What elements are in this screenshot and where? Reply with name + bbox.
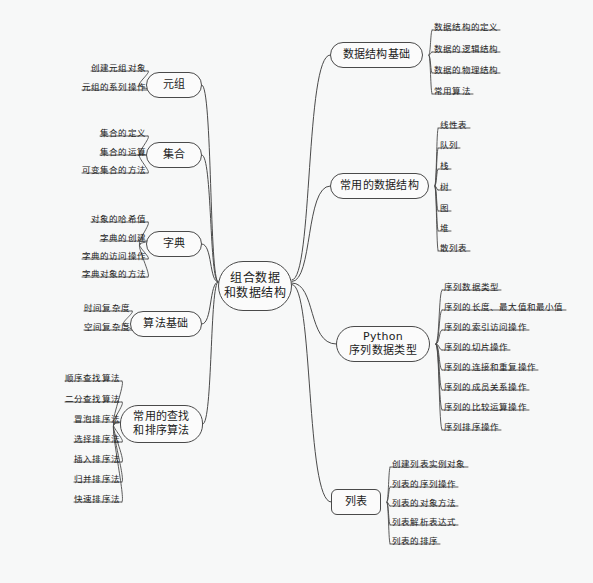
branch-node-changyong-shuju-jiegou[interactable]: 常用的数据结构	[330, 173, 429, 199]
branch-node-label: 数据结构基础	[339, 48, 415, 62]
leaf-node[interactable]: 插入排序法	[74, 452, 120, 465]
leaf-node[interactable]: 可变集合的方法	[82, 163, 146, 176]
leaf-node[interactable]: 冒泡排序法	[74, 412, 120, 425]
leaf-node[interactable]: 二分查找算法	[65, 392, 120, 405]
leaf-node[interactable]: 快速排序法	[74, 492, 120, 505]
leaf-node[interactable]: 集合的定义	[100, 126, 146, 139]
leaf-node[interactable]: 图	[440, 201, 449, 214]
root-node-label-line1: 组合数据	[224, 271, 287, 286]
leaf-node[interactable]: 数据的逻辑结构	[434, 42, 498, 55]
leaf-node[interactable]: 列表的对象方法	[392, 496, 456, 509]
branch-node-jihe[interactable]: 集合	[146, 142, 202, 168]
leaf-node[interactable]: 常用算法	[434, 84, 471, 97]
leaf-node[interactable]: 集合的运算	[100, 145, 146, 158]
leaf-node[interactable]: 序列的成员关系操作	[444, 380, 527, 393]
branch-node-label-line1: 常用的查找	[133, 410, 190, 424]
root-node-label-line2: 和数据结构	[224, 286, 287, 301]
branch-node-label: 元组	[159, 78, 190, 92]
leaf-node[interactable]: 列表的序列操作	[392, 477, 456, 490]
leaf-node[interactable]: 树	[440, 180, 449, 193]
branch-node-label: 集合	[159, 148, 190, 162]
leaf-node[interactable]: 序列数据类型	[444, 280, 499, 293]
branch-node-label: 列表	[341, 495, 372, 509]
leaf-node[interactable]: 字典对象的方法	[82, 267, 146, 280]
leaf-node[interactable]: 字典的访问操作	[82, 249, 146, 262]
leaf-node[interactable]: 序列排序操作	[444, 420, 499, 433]
branch-node-shuju-jiegou-jichu[interactable]: 数据结构基础	[330, 42, 423, 68]
leaf-node[interactable]: 顺序查找算法	[65, 371, 120, 384]
branch-node-label: 字典	[159, 237, 190, 251]
leaf-node[interactable]: 序列的索引访问操作	[444, 320, 527, 333]
leaf-node[interactable]: 字典的创建	[100, 231, 146, 244]
branch-node-label: 算法基础	[139, 317, 192, 331]
leaf-node[interactable]: 线性表	[440, 118, 468, 131]
leaf-node[interactable]: 序列的切片操作	[444, 340, 508, 353]
leaf-node[interactable]: 选择排序法	[74, 432, 120, 445]
leaf-node[interactable]: 创建元组对象	[91, 61, 146, 74]
leaf-node[interactable]: 栈	[440, 159, 449, 172]
leaf-node[interactable]: 元组的系列操作	[82, 80, 146, 93]
leaf-node[interactable]: 创建列表实例对象	[392, 457, 466, 470]
leaf-node[interactable]: 数据的物理结构	[434, 63, 498, 76]
mindmap-canvas: 组合数据和数据结构数据结构基础数据结构的定义数据的逻辑结构数据的物理结构常用算法…	[0, 0, 593, 583]
leaf-node[interactable]: 序列的连接和重复操作	[444, 360, 536, 373]
leaf-node[interactable]: 序列的长度、最大值和最小值	[444, 300, 564, 313]
branch-node-suanfa-jichu[interactable]: 算法基础	[130, 311, 202, 337]
branch-node-label-line1: Python	[349, 330, 417, 344]
branch-node-liebiao[interactable]: 列表	[331, 489, 381, 515]
branch-node-python-xulie[interactable]: Python序列数据类型	[336, 326, 430, 362]
leaf-node[interactable]: 序列的比较运算操作	[444, 400, 527, 413]
branch-node-label: 常用的数据结构	[336, 179, 423, 193]
branch-node-label-line2: 和排序算法	[133, 424, 190, 438]
branch-node-chazhao-paixu[interactable]: 常用的查找和排序算法	[120, 405, 203, 443]
leaf-node[interactable]: 堆	[440, 221, 449, 234]
leaf-node[interactable]: 列表的排序	[392, 534, 438, 547]
leaf-node[interactable]: 列表解析表达式	[392, 515, 456, 528]
leaf-node[interactable]: 对象的哈希值	[91, 212, 146, 225]
branch-node-label-line2: 序列数据类型	[349, 344, 417, 358]
root-node[interactable]: 组合数据和数据结构	[218, 261, 292, 311]
leaf-node[interactable]: 归并排序法	[74, 472, 120, 485]
leaf-node[interactable]: 队列	[440, 138, 458, 151]
branch-node-yuanzu[interactable]: 元组	[146, 72, 202, 98]
leaf-node[interactable]: 数据结构的定义	[434, 20, 498, 33]
leaf-node[interactable]: 时间复杂度	[84, 301, 130, 314]
leaf-node[interactable]: 空间复杂度	[84, 320, 130, 333]
leaf-node[interactable]: 散列表	[440, 241, 468, 254]
branch-node-zidian[interactable]: 字典	[146, 231, 202, 257]
